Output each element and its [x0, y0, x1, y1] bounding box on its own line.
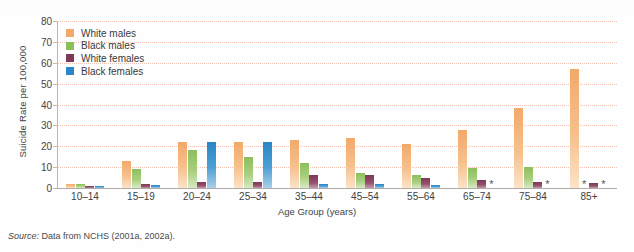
x-axis-title: Age Group (years) [0, 206, 634, 217]
bar [346, 138, 355, 188]
bar-group: 25–34 [225, 21, 281, 188]
source-note: Source: Data from NCHS (2001a, 2002a). [8, 231, 175, 241]
bar-cluster [281, 21, 337, 188]
bar [319, 184, 328, 188]
x-tick-label: 10–14 [57, 191, 113, 202]
legend-swatch-icon [66, 42, 74, 50]
x-tick-label: 65–74 [449, 191, 505, 202]
legend-item-black-females: Black females [66, 65, 144, 78]
bar [76, 184, 85, 188]
bar [244, 157, 253, 188]
bar-group: 45–54 [337, 21, 393, 188]
y-tick-label: 80 [41, 16, 52, 27]
legend-item-label: Black males [81, 40, 135, 51]
suppressed-value-marker: * [580, 180, 589, 189]
x-tick-label: 85+ [561, 191, 617, 202]
bar-group: **85+ [561, 21, 617, 188]
bar-cluster [337, 21, 393, 188]
bar [178, 142, 187, 188]
y-tick-label: 50 [41, 78, 52, 89]
y-axis-title: Suicide Rate per 100,000 [17, 27, 28, 177]
x-tick-label: 75–84 [505, 191, 561, 202]
bar [458, 130, 467, 188]
suicide-rate-bar-chart: Suicide Rate per 100,000 010203040506070… [0, 0, 634, 252]
bar [132, 169, 141, 188]
bar [141, 184, 150, 188]
bar [207, 142, 216, 188]
y-tick-label: 60 [41, 57, 52, 68]
x-tick-label: 15–19 [113, 191, 169, 202]
bar [85, 186, 94, 188]
x-tick-label: 35–44 [281, 191, 337, 202]
bar [524, 167, 533, 188]
bar [234, 142, 243, 188]
suppressed-value-marker: * [543, 180, 552, 189]
bar [309, 175, 318, 188]
x-tick-label: 20–24 [169, 191, 225, 202]
bar-cluster [225, 21, 281, 188]
bar-cluster: * [505, 21, 561, 188]
y-tick-label: 0 [46, 183, 52, 194]
bar-group: *75–84 [505, 21, 561, 188]
legend-swatch-icon [66, 54, 74, 62]
bar [122, 161, 131, 188]
bar [365, 175, 374, 188]
y-tick-label: 20 [41, 141, 52, 152]
bar [570, 69, 579, 188]
bar [253, 182, 262, 188]
bar [263, 142, 272, 188]
suppressed-value-marker: * [487, 180, 496, 189]
bar [66, 184, 75, 188]
legend-item-label: White females [81, 53, 144, 64]
bar [589, 183, 598, 188]
bar [514, 108, 523, 188]
bar-cluster: ** [561, 21, 617, 188]
legend-swatch-icon [66, 29, 74, 37]
bar [477, 180, 486, 188]
chart-legend: White malesBlack malesWhite femalesBlack… [66, 27, 144, 77]
bar-cluster: * [449, 21, 505, 188]
bar-group: *65–74 [449, 21, 505, 188]
legend-item-label: White males [81, 28, 136, 39]
bar [356, 173, 365, 188]
suppressed-value-marker: * [599, 180, 608, 189]
x-axis-line [57, 188, 617, 189]
source-label: Source: [8, 231, 39, 241]
y-tick-label: 30 [41, 120, 52, 131]
bar [375, 184, 384, 188]
y-tick-label: 10 [41, 162, 52, 173]
x-tick-label: 25–34 [225, 191, 281, 202]
bar [300, 163, 309, 188]
x-tick-label: 55–64 [393, 191, 449, 202]
bar [533, 182, 542, 188]
bar [468, 168, 477, 188]
bar-group: 35–44 [281, 21, 337, 188]
y-tick-mark [53, 188, 57, 189]
bar [402, 144, 411, 188]
y-tick-label: 40 [41, 99, 52, 110]
bar [431, 185, 440, 188]
legend-item-black-males: Black males [66, 40, 144, 53]
bar [197, 182, 206, 188]
bar-cluster [393, 21, 449, 188]
bar-cluster [169, 21, 225, 188]
x-tick-label: 45–54 [337, 191, 393, 202]
bar [95, 186, 104, 188]
legend-item-white-females: White females [66, 52, 144, 65]
bar-group: 20–24 [169, 21, 225, 188]
bar [412, 175, 421, 188]
legend-swatch-icon [66, 67, 74, 75]
legend-item-label: Black females [81, 66, 143, 77]
bar [290, 140, 299, 188]
bar [151, 185, 160, 188]
y-tick-label: 70 [41, 36, 52, 47]
source-text: Data from NCHS (2001a, 2002a). [39, 231, 175, 241]
legend-item-white-males: White males [66, 27, 144, 40]
bar-group: 55–64 [393, 21, 449, 188]
bar [421, 178, 430, 188]
bar [188, 150, 197, 188]
